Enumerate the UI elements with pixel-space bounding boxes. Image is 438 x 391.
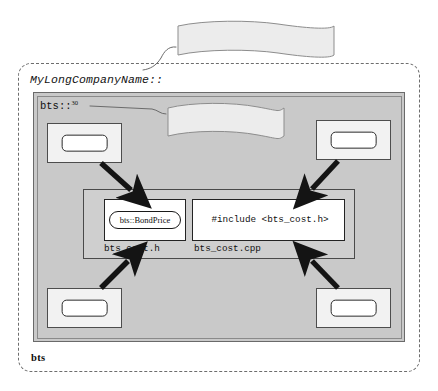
banner-layer — [0, 0, 438, 391]
package-banner[interactable] — [168, 103, 284, 138]
enterprise-banner[interactable] — [178, 21, 334, 57]
diagram-canvas: MyLongCompanyName:: bts bts::30 bts::Bon… — [0, 0, 438, 391]
